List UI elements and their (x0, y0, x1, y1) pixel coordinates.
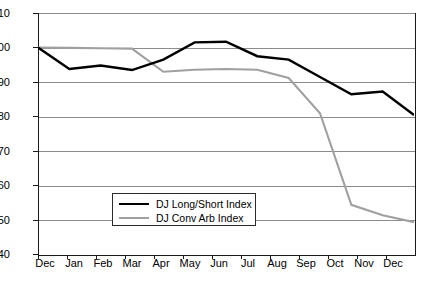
x-axis-label-dec-start: Dec (30, 258, 60, 269)
legend-label-dj-long-short-index: DJ Long/Short Index (156, 199, 252, 210)
x-axis-label-jun: Jun (204, 258, 234, 269)
x-axis-label-feb: Feb (88, 258, 118, 269)
series-line-dj-long-short-index (38, 42, 414, 115)
y-axis-label-90: 90 (0, 77, 10, 88)
x-axis-label-jan: Jan (59, 258, 89, 269)
x-axis-label-oct: Oct (320, 258, 350, 269)
legend-entry-dj-long-short-index: DJ Long/Short Index (119, 197, 255, 211)
x-axis-label-mar: Mar (117, 258, 147, 269)
y-axis-label-60: 60 (0, 180, 10, 191)
x-axis-label-dec-end: Dec (378, 258, 408, 269)
x-axis-label-aug: Aug (262, 258, 292, 269)
x-axis-label-nov: Nov (349, 258, 379, 269)
x-axis-label-apr: Apr (146, 258, 176, 269)
y-axis-label-100: 100 (0, 42, 10, 53)
y-axis-label-40: 40 (0, 249, 10, 260)
chart-container: 110 100 90 80 70 60 50 40 (0, 0, 429, 286)
x-axis-label-sep: Sep (291, 258, 321, 269)
legend-swatch-black-line-icon (119, 203, 149, 205)
x-axis-label-may: May (175, 258, 205, 269)
x-axis-label-jul: Jul (233, 258, 263, 269)
y-axis-label-50: 50 (0, 215, 10, 226)
legend-swatch-gray-line-icon (119, 217, 149, 219)
legend-entry-dj-conv-arb-index: DJ Conv Arb Index (119, 211, 255, 225)
legend-label-dj-conv-arb-index: DJ Conv Arb Index (156, 213, 244, 224)
chart-legend: DJ Long/Short Index DJ Conv Arb Index (112, 193, 256, 226)
y-axis-label-110: 110 (0, 8, 10, 19)
y-axis-label-70: 70 (0, 146, 10, 157)
y-axis-label-80: 80 (0, 111, 10, 122)
